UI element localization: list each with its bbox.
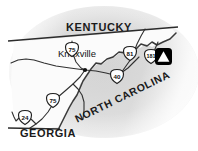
shield-number: 24 <box>22 114 29 121</box>
state-label-kentucky: KENTUCKY <box>66 21 132 33</box>
city-marker-knoxville <box>83 68 87 72</box>
map-figure: KENTUCKY NORTH CAROLINA GEORGIA Knoxvill… <box>0 0 198 151</box>
park-landmark-marker <box>155 48 172 65</box>
shield-number: 181 <box>147 53 156 59</box>
shield-number: 81 <box>127 50 134 57</box>
shield-number: 75 <box>50 97 57 104</box>
state-label-georgia: GEORGIA <box>20 127 76 139</box>
shield-number: 75 <box>69 46 76 53</box>
map-canvas: KENTUCKY NORTH CAROLINA GEORGIA Knoxvill… <box>0 0 198 151</box>
shield-number: 40 <box>114 73 121 80</box>
